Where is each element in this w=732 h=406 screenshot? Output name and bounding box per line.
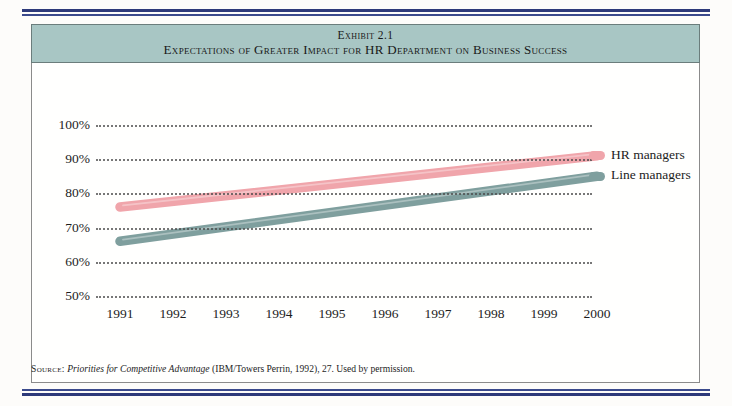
top-rule-group [22,9,710,16]
gridline [96,125,592,127]
y-axis-tick-label: 100% [36,117,90,133]
gridline [96,193,592,195]
chart-plot-area [32,63,699,381]
gridline [96,262,592,264]
legend-swatch [589,172,605,181]
gridline [96,296,592,298]
x-axis-tick-label: 2000 [574,306,620,322]
source-title: Priorities for Competitive Advantage [67,363,209,374]
legend-label-line-managers: Line managers [611,167,691,183]
y-axis-tick-label: 80% [36,185,90,201]
x-axis-tick-label: 1998 [468,306,514,322]
x-axis-tick-label: 1997 [415,306,461,322]
x-axis-tick-label: 1996 [362,306,408,322]
source-label: Source: [31,363,65,374]
y-axis-tick-label: 70% [36,220,90,236]
gridline [96,228,592,230]
x-axis-tick-label: 1991 [97,306,143,322]
bottom-rule-thick [22,393,710,396]
source-rest: (IBM/Towers Perrin, 1992), 27. Used by p… [212,363,415,374]
x-axis-tick-label: 1992 [150,306,196,322]
legend-label-hr-managers: HR managers [611,147,685,163]
exhibit-title-band: Exhibit 2.1 Expectations of Greater Impa… [31,24,700,63]
x-axis-tick-label: 1999 [521,306,567,322]
exhibit-subtitle: Expectations of Greater Impact for HR De… [32,42,699,58]
top-rule-thin [22,14,710,16]
y-axis-tick-label: 90% [36,151,90,167]
gridline [96,159,592,161]
line-chart: 50%60%70%80%90%100%199119921993199419951… [32,63,699,381]
series-highlight [123,154,594,205]
legend-swatch [589,151,605,160]
exhibit-number: Exhibit 2.1 [32,29,699,41]
y-axis-tick-label: 50% [36,288,90,304]
exhibit-page: Exhibit 2.1 Expectations of Greater Impa… [0,0,732,406]
source-note: Source: Priorities for Competitive Advan… [31,363,671,374]
x-axis-tick-label: 1993 [203,306,249,322]
x-axis-tick-label: 1995 [309,306,355,322]
y-axis-tick-label: 60% [36,254,90,270]
x-axis-tick-label: 1994 [256,306,302,322]
bottom-rule-group [22,389,710,396]
exhibit-content-box: 50%60%70%80%90%100%199119921993199419951… [31,63,700,383]
